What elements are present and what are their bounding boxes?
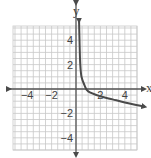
graph: −4−22442−2−4 x y [0,0,151,158]
grid-lines [13,26,137,150]
y-tick-label: 4 [67,34,73,46]
x-tick-label: −4 [21,89,34,101]
x-tick-label: 4 [122,89,128,101]
x-axis-label: x [146,80,151,95]
y-tick-label: −4 [60,132,73,144]
y-tick-label: 2 [67,59,73,71]
function-curve [79,21,144,107]
x-tick-label: −2 [45,89,58,101]
y-tick-label: −2 [60,107,73,119]
data-series [79,21,144,107]
y-axis-label: y [73,3,80,18]
